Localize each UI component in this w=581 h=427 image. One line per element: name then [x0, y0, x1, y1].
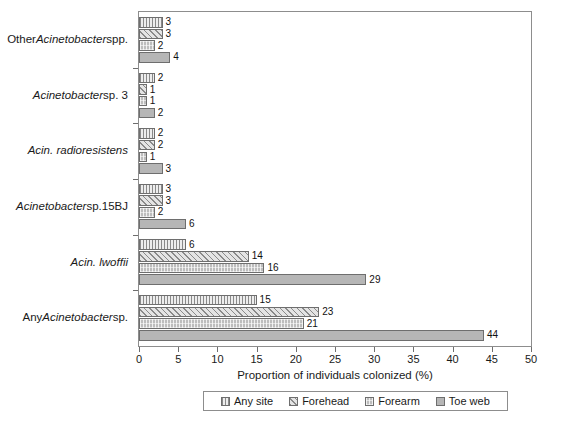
- bar-row: 2: [139, 207, 531, 218]
- bar[interactable]: [139, 295, 257, 306]
- bar-row: 15: [139, 295, 531, 306]
- bar-row: 2: [139, 108, 531, 119]
- bar-value-label: 1: [150, 152, 156, 162]
- bar-row: 2: [139, 40, 531, 51]
- x-axis-tick: [413, 347, 414, 352]
- bar-group: 3324: [139, 12, 531, 68]
- bar-row: 3: [139, 17, 531, 28]
- bar-row: 3: [139, 184, 531, 195]
- bar[interactable]: [139, 263, 264, 274]
- bar[interactable]: [139, 73, 155, 84]
- bar[interactable]: [139, 40, 155, 51]
- bar[interactable]: [139, 330, 484, 341]
- bar-value-label: 1: [150, 85, 156, 95]
- x-axis-tick-label: 35: [407, 353, 419, 365]
- x-axis-tick: [296, 347, 297, 352]
- y-axis-category-label: Acin. lwoffii: [0, 234, 133, 290]
- bar[interactable]: [139, 318, 304, 329]
- legend-swatch-icon: [436, 397, 445, 406]
- x-axis-tick-label: 30: [368, 353, 380, 365]
- x-axis-tick: [257, 347, 258, 352]
- bar[interactable]: [139, 152, 147, 163]
- x-axis-tick: [492, 347, 493, 352]
- bar-value-label: 2: [158, 108, 164, 118]
- bar-value-label: 4: [173, 52, 179, 62]
- bar-value-label: 21: [307, 319, 318, 329]
- bar[interactable]: [139, 140, 155, 151]
- bar-value-label: 15: [260, 295, 271, 305]
- bar[interactable]: [139, 163, 163, 174]
- bar[interactable]: [139, 17, 163, 28]
- y-axis-category-labels: Other Acinetobacter spp.Acinetobacter sp…: [0, 12, 133, 346]
- bar-row: 16: [139, 263, 531, 274]
- bar-value-label: 23: [322, 307, 333, 317]
- bar[interactable]: [139, 195, 163, 206]
- x-axis-tick-label: 40: [446, 353, 458, 365]
- x-axis-tick: [335, 347, 336, 352]
- y-axis-category-label: Any Acinetobacter sp.: [0, 290, 133, 346]
- bar[interactable]: [139, 52, 170, 63]
- y-axis-category-label: Other Acinetobacter spp.: [0, 12, 133, 68]
- y-axis-tick: [133, 123, 138, 124]
- chart-legend: Any siteForeheadForearmToe web: [203, 391, 508, 411]
- bar[interactable]: [139, 128, 155, 139]
- x-axis-tick-label: 10: [211, 353, 223, 365]
- bar-value-label: 3: [166, 196, 172, 206]
- bar-row: 3: [139, 163, 531, 174]
- bar-value-label: 16: [267, 263, 278, 273]
- x-axis-tick-label: 20: [290, 353, 302, 365]
- x-axis-title: Proportion of individuals colonized (%): [138, 369, 532, 381]
- bar[interactable]: [139, 239, 186, 250]
- x-axis-tick: [139, 347, 140, 352]
- legend-item[interactable]: Forearm: [365, 396, 420, 407]
- bar-value-label: 14: [252, 251, 263, 261]
- x-axis-tick-label: 50: [525, 353, 537, 365]
- bar-row: 2: [139, 73, 531, 84]
- legend-swatch-icon: [221, 397, 230, 406]
- x-axis-tick-label: 45: [486, 353, 498, 365]
- bar[interactable]: [139, 184, 163, 195]
- bar[interactable]: [139, 219, 186, 230]
- legend-item[interactable]: Toe web: [436, 396, 490, 407]
- bar[interactable]: [139, 84, 147, 95]
- x-axis-tick: [374, 347, 375, 352]
- bar-row: 3: [139, 29, 531, 40]
- bar-value-label: 2: [158, 207, 164, 217]
- bar[interactable]: [139, 108, 155, 119]
- y-axis-tick: [133, 179, 138, 180]
- bar-group: 2112: [139, 68, 531, 124]
- legend-label: Forehead: [302, 396, 349, 407]
- bar-row: 1: [139, 96, 531, 107]
- bar[interactable]: [139, 251, 249, 262]
- y-axis-tick: [133, 68, 138, 69]
- x-axis-tick: [178, 347, 179, 352]
- bar[interactable]: [139, 274, 366, 285]
- bar-row: 29: [139, 274, 531, 285]
- bar[interactable]: [139, 307, 319, 318]
- bar[interactable]: [139, 29, 163, 40]
- bar[interactable]: [139, 207, 155, 218]
- y-axis-category-label: Acinetobacter sp.15BJ: [0, 179, 133, 235]
- legend-item[interactable]: Forehead: [289, 396, 349, 407]
- bar[interactable]: [139, 96, 147, 107]
- bar-value-label: 6: [189, 219, 195, 229]
- y-axis-tick: [133, 235, 138, 236]
- bar-value-label: 6: [189, 240, 195, 250]
- x-axis-tick-label: 0: [136, 353, 142, 365]
- y-axis-category-label: Acinetobacter sp. 3: [0, 68, 133, 124]
- x-axis-tick-label: 15: [250, 353, 262, 365]
- bar-row: 1: [139, 152, 531, 163]
- bar-group: 2213: [139, 123, 531, 179]
- legend-item[interactable]: Any site: [221, 396, 273, 407]
- bar-value-label: 2: [158, 140, 164, 150]
- y-axis-category-label: Acin. radioresistens: [0, 123, 133, 179]
- bar-row: 2: [139, 140, 531, 151]
- y-axis-tick: [133, 290, 138, 291]
- x-axis-tick: [453, 347, 454, 352]
- bar-row: 3: [139, 195, 531, 206]
- legend-label: Toe web: [449, 396, 490, 407]
- bar-row: 21: [139, 318, 531, 329]
- bar-value-label: 2: [158, 73, 164, 83]
- bar-value-label: 3: [166, 17, 172, 27]
- bar-group: 6141629: [139, 234, 531, 290]
